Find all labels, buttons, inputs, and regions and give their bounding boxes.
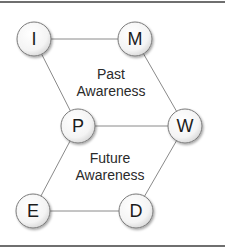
node-d-label: D: [130, 201, 143, 221]
node-e: E: [16, 194, 50, 228]
node-w: W: [168, 109, 202, 143]
awareness-diagram: Past Awareness Future Awareness I M P W …: [0, 0, 225, 249]
node-p-label: P: [72, 116, 84, 136]
past-awareness-label: Past Awareness: [76, 66, 145, 99]
past-label-line1: Past: [97, 66, 125, 82]
node-m-label: M: [128, 29, 143, 49]
future-label-line2: Awareness: [75, 167, 144, 183]
node-p: P: [61, 109, 95, 143]
edges: [33, 39, 185, 211]
past-label-line2: Awareness: [76, 83, 145, 99]
node-d: D: [119, 194, 153, 228]
future-awareness-label: Future Awareness: [75, 150, 144, 183]
node-w-label: W: [177, 116, 194, 136]
future-label-line1: Future: [90, 150, 131, 166]
node-m: M: [118, 22, 152, 56]
node-i-label: I: [31, 29, 36, 49]
node-i: I: [17, 22, 51, 56]
node-e-label: E: [27, 201, 39, 221]
